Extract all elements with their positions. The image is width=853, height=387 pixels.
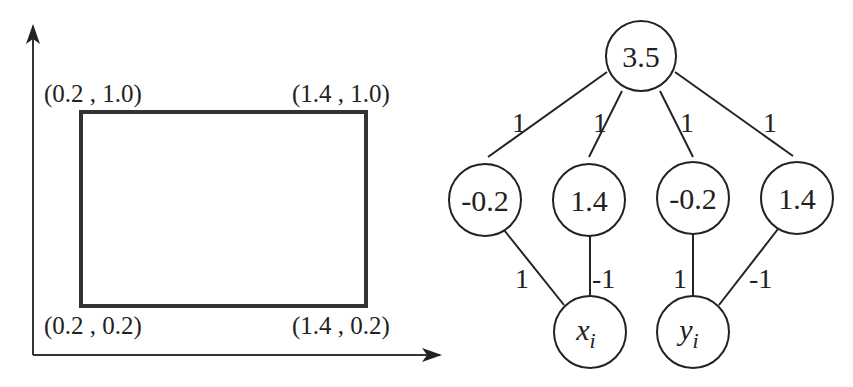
hidden-node-4-label: 1.4	[778, 182, 816, 215]
weight-h4-y: -1	[749, 263, 772, 294]
output-node-label: 3.5	[622, 40, 660, 73]
corner-label-top-left: (0.2 , 1.0)	[44, 80, 142, 108]
weight-h3-y: 1	[673, 263, 687, 294]
edge-out-h1	[488, 72, 607, 157]
hidden-node-2-label: 1.4	[570, 184, 608, 217]
corner-label-bottom-left: (0.2 , 0.2)	[44, 312, 142, 340]
weight-h2-x: -1	[592, 263, 615, 294]
weight-out-h2: 1	[593, 107, 607, 138]
right-panel-network	[488, 72, 793, 305]
corner-label-bottom-right: (1.4 , 0.2)	[292, 312, 390, 340]
hidden-node-1-label: -0.2	[461, 184, 509, 217]
weight-out-h4: 1	[763, 107, 777, 138]
edge-weights: 1 1 1 1 1 -1 1 -1	[512, 107, 777, 294]
left-panel: (0.2 , 1.0) (1.4 , 1.0) (0.2 , 0.2) (1.4…	[33, 26, 440, 355]
edge-h1-x	[504, 230, 564, 305]
weight-out-h1: 1	[512, 107, 526, 138]
hidden-node-3-label: -0.2	[669, 182, 717, 215]
figure-canvas: (0.2 , 1.0) (1.4 , 1.0) (0.2 , 0.2) (1.4…	[0, 0, 853, 387]
corner-label-top-right: (1.4 , 1.0)	[292, 80, 390, 108]
region-rectangle	[81, 112, 366, 306]
weight-h1-x: 1	[515, 263, 529, 294]
weight-out-h3: 1	[680, 107, 694, 138]
